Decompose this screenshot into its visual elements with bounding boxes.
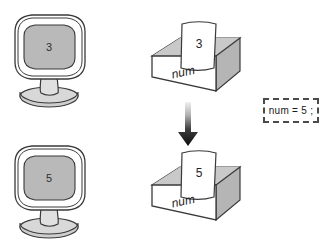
figure-canvas: 3 5 3 num [0,0,323,247]
arrow-shape [178,102,198,146]
monitor-before-value: 3 [46,41,52,53]
variable-box-before: 3 num [144,21,248,105]
paper-after-value: 5 [196,166,203,180]
code-statement-text: num = 5 ; [269,105,314,116]
monitor-after: 5 [6,143,92,241]
monitor-before: 3 [6,12,92,110]
paper-before-value: 3 [196,37,203,51]
monitor-after-value: 5 [46,172,52,184]
code-statement-box: num = 5 ; [263,98,319,123]
down-arrow [175,101,201,147]
variable-box-after: 5 num [144,150,248,234]
